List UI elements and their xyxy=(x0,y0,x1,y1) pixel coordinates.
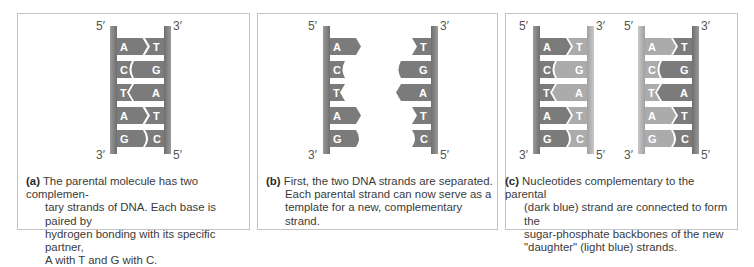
caption-c-tag: (c) xyxy=(505,175,519,187)
caption-b: (b) First, the two DNA strands are separ… xyxy=(266,175,496,228)
caption-a-tag: (a) xyxy=(26,175,40,187)
caption-a: (a) The parental molecule has two comple… xyxy=(26,175,250,267)
caption-b-tag: (b) xyxy=(266,175,281,187)
caption-c: (c) Nucleotides complementary to the par… xyxy=(505,175,737,254)
